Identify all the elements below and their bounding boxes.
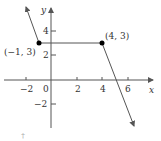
- tick-y-neg2: −2: [34, 99, 47, 109]
- tick-x-2: 2: [75, 84, 81, 94]
- point-left: [37, 41, 42, 46]
- y-axis-label: y: [40, 5, 47, 15]
- x-axis-label: x: [149, 85, 154, 95]
- dagger-mark: †: [21, 131, 25, 140]
- tick-y-4: 4: [43, 26, 49, 36]
- tick-x-4: 4: [100, 84, 106, 94]
- tick-origin: 0: [43, 84, 49, 94]
- y-ticks: [51, 31, 56, 104]
- tick-y-2: 2: [43, 50, 49, 60]
- function-graph: −2 0 2 4 6 x 4 2 −2 y (−1, 3) (4, 3) †: [0, 0, 161, 141]
- tick-x-neg2: −2: [20, 84, 33, 94]
- point-left-label: (−1, 3): [4, 47, 36, 57]
- left-ray: [26, 7, 39, 43]
- tick-x-6: 6: [125, 84, 131, 94]
- point-right: [100, 41, 105, 46]
- point-right-label: (4, 3): [105, 31, 129, 41]
